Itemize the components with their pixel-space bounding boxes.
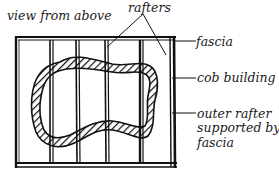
label-cob-building: cob building [197, 71, 276, 84]
view-title: view from above [7, 9, 112, 22]
label-outer-rafter-3: fascia [197, 136, 234, 149]
label-rafters: rafters [128, 1, 171, 14]
label-outer-rafter-2: supported by [197, 121, 279, 134]
rafter-4 [140, 40, 143, 163]
label-outer-rafter-1: outer rafter [197, 107, 271, 120]
outer-rafter [170, 37, 175, 168]
rafter-3 [105, 40, 109, 163]
roof-plan-drawing [0, 0, 279, 175]
diagram-canvas: view from above rafters fascia cob build… [0, 0, 279, 175]
rafters [50, 37, 175, 168]
label-fascia: fascia [196, 35, 233, 48]
